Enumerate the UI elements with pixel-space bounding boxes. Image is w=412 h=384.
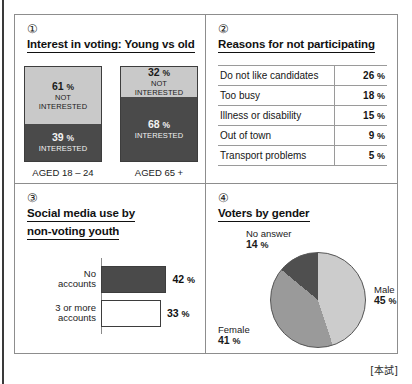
hbar-label-no-accounts: No accounts bbox=[58, 269, 96, 290]
table-row: Out of town 9 % bbox=[218, 126, 387, 146]
stack-group-old: 32 % NOT INTERESTED 68 % INTERESTED AGED… bbox=[120, 66, 198, 178]
table-row: Too busy 18 % bbox=[218, 86, 387, 106]
stack-caption-young: AGED 18 – 24 bbox=[24, 167, 102, 178]
segment-old-not-interested-label1: NOT bbox=[151, 79, 167, 88]
panel-interest-in-voting: ① Interest in voting: Young vs old 61 % … bbox=[15, 15, 206, 184]
reason-label: Out of town bbox=[218, 126, 335, 146]
reason-value: 18 % bbox=[335, 86, 388, 106]
panel-title-4: Voters by gender bbox=[218, 206, 387, 222]
pie-label-male: Male 45 % bbox=[374, 284, 397, 307]
segment-young-not-interested: 61 % NOT INTERESTED bbox=[25, 67, 101, 124]
panel-title-3: Social media use by non-voting youth bbox=[27, 206, 195, 240]
stacked-bar-old: 32 % NOT INTERESTED 68 % INTERESTED bbox=[120, 66, 198, 162]
hbar-value-no-accounts: 42 % bbox=[172, 273, 195, 285]
segment-old-not-interested-label2: INTERESTED bbox=[135, 88, 184, 97]
source-note: [本試] bbox=[370, 362, 398, 377]
panel-number-1: ① bbox=[27, 23, 195, 36]
table-row: Illness or disability 15 % bbox=[218, 106, 387, 126]
hbar-no-accounts bbox=[101, 266, 166, 293]
panel-title-4-line1: Voters by gender bbox=[218, 206, 310, 222]
reason-label: Too busy bbox=[218, 86, 335, 106]
segment-old-interested-value: 68 % bbox=[148, 119, 170, 131]
pie-value-no-answer: 14 % bbox=[246, 238, 269, 250]
reason-value: 15 % bbox=[335, 106, 388, 126]
horizontal-bar-chart-3: No accounts 42 % 3 or more accounts 33 % bbox=[27, 264, 195, 328]
reason-label: Do not like candidates bbox=[218, 66, 335, 86]
pie-graphic bbox=[270, 252, 366, 348]
hbar-label-three-or-more: 3 or more accounts bbox=[55, 303, 96, 324]
panel-title-2-line1: Reasons for not participating bbox=[218, 37, 375, 53]
pie-chart-4: No answer 14 % Male 45 % Female 41 % bbox=[218, 228, 387, 353]
hbar-row-three-or-more: 3 or more accounts 33 % bbox=[101, 298, 195, 328]
segment-old-interested-label1: INTERESTED bbox=[135, 131, 184, 140]
reason-label: Transport problems bbox=[218, 146, 335, 166]
segment-young-not-interested-label2: INTERESTED bbox=[39, 102, 88, 111]
panel-reasons-not-participating: ② Reasons for not participating Do not l… bbox=[206, 15, 397, 184]
panel-title-2: Reasons for not participating bbox=[218, 37, 387, 53]
reason-label: Illness or disability bbox=[218, 106, 335, 126]
segment-young-interested: 39 % INTERESTED bbox=[25, 124, 101, 161]
hbar-value-three-or-more: 33 % bbox=[167, 307, 190, 319]
stack-group-young: 61 % NOT INTERESTED 39 % INTERESTED AGED… bbox=[24, 66, 102, 178]
segment-old-not-interested: 32 % NOT INTERESTED bbox=[121, 67, 197, 97]
panel-number-4: ④ bbox=[218, 192, 387, 205]
hbar-three-or-more bbox=[101, 300, 161, 327]
stacked-bar-chart-1: 61 % NOT INTERESTED 39 % INTERESTED AGED… bbox=[27, 66, 195, 178]
segment-old-interested: 68 % INTERESTED bbox=[121, 97, 197, 161]
table-row: Do not like candidates 26 % bbox=[218, 66, 387, 86]
stack-caption-old: AGED 65 + bbox=[120, 167, 198, 178]
segment-young-interested-label1: INTERESTED bbox=[39, 144, 88, 153]
panel-number-2: ② bbox=[218, 23, 387, 36]
panel-title-3-line1: Social media use by bbox=[27, 206, 135, 222]
segment-old-not-interested-value: 32 % bbox=[148, 67, 170, 79]
reason-value: 26 % bbox=[335, 66, 388, 86]
panel-title-3-line2: non-voting youth bbox=[27, 224, 119, 240]
panel-title-1: Interest in voting: Young vs old bbox=[27, 37, 195, 53]
panel-number-3: ③ bbox=[27, 192, 195, 205]
reasons-table: Do not like candidates 26 % Too busy 18 … bbox=[218, 65, 387, 166]
panel-voters-by-gender: ④ Voters by gender No answer 14 % Male 4… bbox=[206, 184, 397, 353]
pie-value-female: 41 % bbox=[218, 334, 241, 346]
hbar-row-no-accounts: No accounts 42 % bbox=[101, 264, 195, 294]
left-margin-rule bbox=[2, 0, 4, 384]
segment-young-not-interested-label1: NOT bbox=[55, 93, 71, 102]
pie-value-male: 45 % bbox=[374, 294, 397, 306]
segment-young-interested-value: 39 % bbox=[52, 132, 74, 144]
segment-young-not-interested-value: 61 % bbox=[52, 81, 74, 93]
panel-social-media-use: ③ Social media use by non-voting youth N… bbox=[15, 184, 206, 353]
table-row: Transport problems 5 % bbox=[218, 146, 387, 166]
reason-value: 5 % bbox=[335, 146, 388, 166]
pie-label-female: Female 41 % bbox=[218, 324, 250, 347]
reason-value: 9 % bbox=[335, 126, 388, 146]
stacked-bar-young: 61 % NOT INTERESTED 39 % INTERESTED bbox=[24, 66, 102, 162]
pie-label-no-answer: No answer 14 % bbox=[246, 228, 291, 251]
panel-title-1-line1: Interest in voting: Young vs old bbox=[27, 37, 195, 53]
infographic-grid: ① Interest in voting: Young vs old 61 % … bbox=[14, 14, 398, 354]
